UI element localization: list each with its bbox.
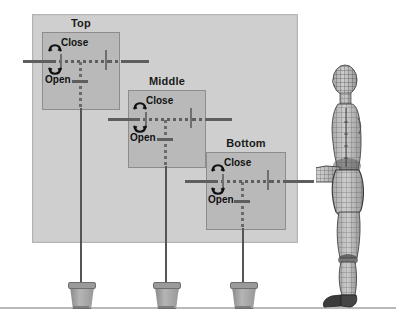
station-bottom-pole — [242, 228, 244, 284]
station-middle-close-label: Close — [146, 95, 173, 106]
station-top-title: Top — [42, 17, 120, 29]
station-middle-bar-right — [207, 118, 232, 121]
station-top-bar-dotted-right — [109, 60, 123, 63]
station-middle-pole-dotted — [164, 120, 167, 166]
station-bottom-close-label: Close — [224, 157, 251, 168]
station-middle-open-label: Open — [130, 132, 156, 143]
human-wireframe-mannequin — [316, 62, 382, 310]
arc-arrow-up-icon — [48, 38, 62, 56]
station-middle-bar-dotted-right — [193, 118, 207, 121]
station-bottom-pole-dotted — [241, 182, 244, 228]
station-top-open-label: Open — [45, 74, 71, 85]
station-bottom-bar-dotted-right — [271, 180, 285, 183]
arc-arrow-up-icon — [211, 158, 225, 176]
bucket-bottom — [230, 282, 256, 308]
station-middle-title: Middle — [128, 75, 206, 87]
station-top-bar-right — [123, 60, 149, 63]
station-bottom-open-tick — [234, 200, 250, 203]
bucket-base — [158, 306, 174, 308]
station-middle-bar-left — [108, 118, 137, 121]
station-bottom-bar-left — [185, 180, 215, 183]
station-bottom-tick-right — [267, 170, 269, 190]
diagram-scene: Top Close Open Middle — [0, 0, 396, 328]
bucket-middle — [153, 282, 179, 308]
station-middle-open-tick — [157, 138, 173, 141]
station-top-pole — [80, 108, 82, 284]
station-top-bar-left — [23, 60, 53, 63]
bucket-rim — [153, 282, 181, 289]
bucket-base — [235, 306, 251, 308]
station-middle-pole — [165, 166, 167, 284]
station-top-tick-right — [105, 50, 107, 70]
station-top-open-tick — [72, 80, 88, 83]
station-bottom-title: Bottom — [206, 137, 286, 149]
station-top-pole-dotted — [79, 62, 82, 108]
station-bottom-open-label: Open — [208, 194, 234, 205]
arc-arrow-up-icon — [133, 96, 147, 114]
bucket-rim — [230, 282, 258, 289]
bucket-rim — [68, 282, 96, 289]
station-middle-tick-right — [190, 108, 192, 128]
bucket-top — [68, 282, 94, 308]
station-top-close-label: Close — [61, 37, 88, 48]
reach-bar-stub — [300, 180, 314, 183]
bucket-base — [73, 306, 89, 308]
